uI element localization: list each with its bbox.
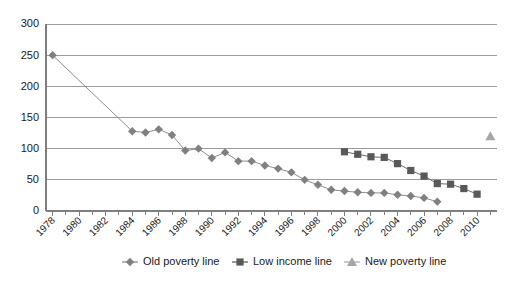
datapoint-square-2004 (394, 160, 401, 167)
xtick-label-2006: 2006 (405, 214, 429, 238)
legend-label-0: Old poverty line (143, 255, 219, 267)
datapoint-diamond-1998 (314, 181, 322, 189)
legend-marker-1 (236, 258, 243, 265)
xtick-label-1994: 1994 (246, 214, 270, 238)
ytick-label-300: 300 (21, 17, 39, 29)
datapoint-square-2005 (407, 167, 414, 174)
xtick-label-2000: 2000 (325, 214, 349, 238)
datapoint-diamond-1985 (141, 128, 149, 136)
datapoint-square-2008 (447, 181, 454, 188)
ytick-label-50: 50 (27, 173, 39, 185)
datapoint-square-2010 (474, 191, 481, 198)
datapoint-square-2002 (367, 153, 374, 160)
datapoint-square-2001 (354, 151, 361, 158)
datapoint-diamond-1991 (221, 148, 229, 156)
legend-marker-0 (126, 258, 134, 266)
datapoint-diamond-1999 (327, 186, 335, 194)
ytick-label-150: 150 (21, 111, 39, 123)
ytick-label-100: 100 (21, 142, 39, 154)
xtick-label-1990: 1990 (193, 214, 217, 238)
datapoint-diamond-2002 (367, 189, 375, 197)
datapoint-diamond-2000 (340, 187, 348, 195)
datapoint-square-2003 (381, 154, 388, 161)
xtick-label-1986: 1986 (140, 214, 164, 238)
datapoint-triangle-2011 (485, 131, 495, 140)
xtick-label-1988: 1988 (166, 214, 190, 238)
ytick-label-200: 200 (21, 80, 39, 92)
datapoint-square-2007 (434, 180, 441, 187)
legend-label-1: Low income line (253, 255, 332, 267)
datapoint-square-2000 (341, 148, 348, 155)
datapoint-diamond-2007 (433, 197, 441, 205)
datapoint-diamond-1995 (274, 164, 282, 172)
datapoint-diamond-1997 (300, 176, 308, 184)
datapoint-diamond-2001 (354, 188, 362, 196)
datapoint-diamond-2006 (420, 194, 428, 202)
datapoint-diamond-1993 (247, 157, 255, 165)
ytick-label-0: 0 (33, 204, 39, 216)
poverty-line-chart: 0501001502002503001978198019821984198619… (0, 0, 508, 286)
datapoint-diamond-1990 (208, 154, 216, 162)
datapoint-diamond-1994 (261, 161, 269, 169)
datapoint-diamond-2004 (393, 191, 401, 199)
datapoint-diamond-1996 (287, 168, 295, 176)
xtick-label-2004: 2004 (378, 214, 402, 238)
datapoint-square-2006 (420, 172, 427, 179)
datapoint-square-2009 (460, 185, 467, 192)
xtick-label-2010: 2010 (458, 214, 482, 238)
xtick-label-2002: 2002 (352, 214, 376, 238)
xtick-label-1992: 1992 (219, 214, 243, 238)
xtick-label-1982: 1982 (87, 214, 111, 238)
legend-label-2: New poverty line (365, 255, 446, 267)
chart-canvas: 0501001502002503001978198019821984198619… (0, 0, 508, 286)
xtick-label-1980: 1980 (60, 214, 84, 238)
ytick-label-250: 250 (21, 49, 39, 61)
xtick-label-1984: 1984 (113, 214, 137, 238)
datapoint-diamond-1989 (194, 144, 202, 152)
datapoint-diamond-2003 (380, 189, 388, 197)
xtick-label-1998: 1998 (299, 214, 323, 238)
datapoint-diamond-1986 (155, 125, 163, 133)
datapoint-diamond-1992 (234, 157, 242, 165)
xtick-label-2008: 2008 (431, 214, 455, 238)
xtick-label-1996: 1996 (272, 214, 296, 238)
datapoint-diamond-2005 (407, 192, 415, 200)
xtick-label-1978: 1978 (34, 214, 58, 238)
